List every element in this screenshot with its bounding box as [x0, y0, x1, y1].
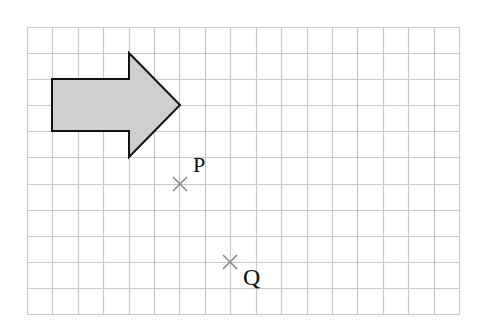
arrow-shape: [52, 53, 180, 157]
point-q: Q: [223, 255, 260, 290]
point-label-q: Q: [243, 264, 260, 290]
point-label-p: P: [193, 152, 205, 177]
grid-diagram: P Q: [0, 0, 478, 329]
